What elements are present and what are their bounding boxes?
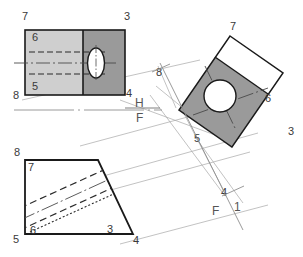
front-view-label-4: 4	[133, 234, 139, 246]
technical-drawing-canvas: 7 3 6 5 8 4 H F 7 8 6 5 3 4	[0, 0, 303, 257]
front-view-label-3: 3	[107, 223, 113, 235]
auxiliary-view-label-7: 7	[230, 20, 236, 32]
h-f-reference-line: H F	[14, 96, 162, 125]
reference-label-h: H	[135, 96, 144, 110]
auxiliary-view-hole-circle	[204, 80, 236, 112]
auxiliary-view-label-3: 3	[288, 125, 294, 137]
reference-label-f2: F	[212, 204, 219, 218]
projection-line	[120, 205, 268, 244]
top-view-label-3: 3	[124, 10, 130, 22]
top-view: 7 3 6 5 8 4	[13, 10, 132, 101]
orthographic-projection-drawing: 7 3 6 5 8 4 H F 7 8 6 5 3 4	[0, 0, 303, 257]
top-view-label-4: 4	[126, 87, 132, 99]
top-view-label-8: 8	[13, 89, 19, 101]
front-view: 8 7 5 6 3 4	[13, 146, 139, 246]
front-view-label-6: 6	[30, 224, 36, 236]
front-view-label-7: 7	[28, 161, 34, 173]
auxiliary-view-label-6: 6	[265, 92, 271, 104]
top-view-label-6: 6	[32, 31, 38, 43]
reference-label-f: F	[136, 111, 143, 125]
projection-line	[196, 138, 243, 203]
reference-label-1: 1	[234, 200, 241, 214]
front-view-outline	[25, 160, 133, 234]
top-view-label-5: 5	[32, 80, 38, 92]
front-view-label-8: 8	[14, 146, 20, 158]
front-view-label-5: 5	[13, 233, 19, 245]
top-view-label-7: 7	[22, 10, 28, 22]
auxiliary-view: 7 8 6 5 3 4	[156, 20, 294, 198]
